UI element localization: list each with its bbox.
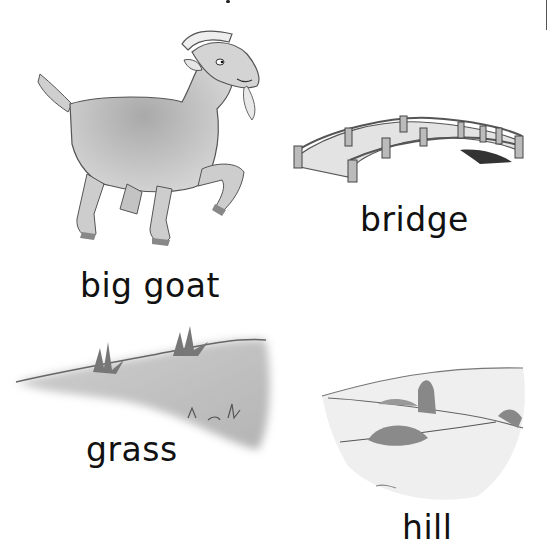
- page-edge-line: [546, 0, 547, 30]
- label-grass: grass: [86, 430, 178, 469]
- label-big-goat: big goat: [80, 266, 220, 305]
- goat-illustration-icon: [32, 24, 282, 254]
- page-mark: [226, 0, 230, 3]
- label-bridge: bridge: [360, 200, 469, 239]
- bridge-illustration-icon: [290, 112, 530, 187]
- label-hill: hill: [402, 508, 452, 547]
- hill-illustration-icon: [318, 356, 530, 506]
